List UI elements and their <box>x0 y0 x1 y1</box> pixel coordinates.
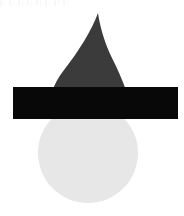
black-horizontal-bar <box>13 87 178 119</box>
image-canvas: Abstract Geometric Composition <box>0 0 184 216</box>
abstract-composition-figure: Abstract Geometric Composition <box>0 0 184 216</box>
